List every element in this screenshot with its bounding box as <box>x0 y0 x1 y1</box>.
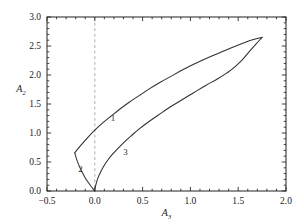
curve-label-3: 3 <box>123 147 128 157</box>
x-tick-label: 0.0 <box>89 196 101 206</box>
y-tick-label: 1.0 <box>29 128 41 138</box>
y-tick-label: 2.0 <box>29 70 41 80</box>
y-tick-label: 0.5 <box>29 157 41 167</box>
chart-container: −0.50.00.51.01.52.0 0.00.51.01.52.02.53.… <box>0 0 304 224</box>
curve-label-1: 1 <box>111 113 116 123</box>
curve-label-2: 2 <box>78 164 83 174</box>
y-tick-label: 3.0 <box>29 12 41 22</box>
x-tick-label: 0.5 <box>137 196 149 206</box>
x-tick-label: 1.0 <box>184 196 196 206</box>
x-tick-label: 1.5 <box>232 196 244 206</box>
chart-plot: −0.50.00.51.01.52.0 0.00.51.01.52.02.53.… <box>0 0 304 224</box>
x-tick-label: 2.0 <box>280 196 292 206</box>
y-tick-label: 1.5 <box>29 99 41 109</box>
y-tick-label: 0.0 <box>29 186 41 196</box>
y-tick-label: 2.5 <box>29 41 41 51</box>
x-tick-label: −0.5 <box>38 196 55 206</box>
